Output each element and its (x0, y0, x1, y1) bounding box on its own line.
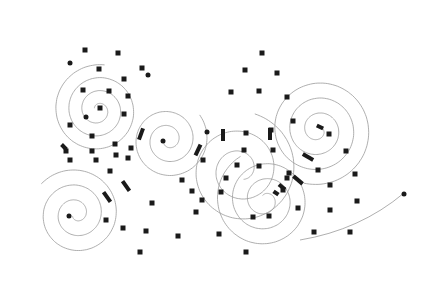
square-node (260, 51, 265, 56)
square-node (251, 215, 256, 220)
square-node (150, 201, 155, 206)
square-node (126, 94, 131, 99)
square-node (90, 149, 95, 154)
square-node (281, 188, 286, 193)
square-node (296, 206, 301, 211)
square-node (355, 199, 360, 204)
square-node (285, 176, 290, 181)
square-node (83, 48, 88, 53)
square-node (242, 148, 247, 153)
square-node (116, 51, 121, 56)
square-node (275, 71, 280, 76)
square-node (107, 89, 112, 94)
square-node (140, 66, 145, 71)
square-node (328, 183, 333, 188)
square-node (257, 164, 262, 169)
square-node (312, 230, 317, 235)
square-node (122, 77, 127, 82)
square-node (201, 158, 206, 163)
square-node (271, 148, 276, 153)
square-node (200, 198, 205, 203)
square-node (190, 189, 195, 194)
square-node (348, 230, 353, 235)
square-node (269, 128, 274, 133)
square-node (90, 134, 95, 139)
square-node (257, 89, 262, 94)
square-node (353, 172, 358, 177)
endpoint-dot (161, 139, 166, 144)
square-node (114, 153, 119, 158)
square-node (217, 232, 222, 237)
square-node (219, 190, 224, 195)
square-node (243, 68, 248, 73)
endpoint-dot (402, 192, 407, 197)
square-node (81, 88, 86, 93)
square-node (285, 95, 290, 100)
square-node (113, 142, 118, 147)
square-node (97, 67, 102, 72)
square-node (129, 146, 134, 151)
square-node (229, 90, 234, 95)
square-node (291, 119, 296, 124)
square-node (235, 163, 240, 168)
square-node (122, 112, 127, 117)
square-node (287, 171, 292, 176)
square-node (68, 158, 73, 163)
endpoint-dot (67, 214, 72, 219)
square-node (180, 178, 185, 183)
square-node (98, 106, 103, 111)
endpoint-dot (205, 130, 210, 135)
square-node (104, 218, 109, 223)
square-node (108, 169, 113, 174)
square-node (327, 132, 332, 137)
square-node (68, 123, 73, 128)
endpoint-dot (84, 115, 89, 120)
square-node (64, 149, 69, 154)
square-node (121, 226, 126, 231)
square-node (316, 168, 321, 173)
endpoint-dot (146, 73, 151, 78)
square-node (94, 158, 99, 163)
bar-marker (221, 129, 225, 141)
square-node (144, 229, 149, 234)
square-node (138, 250, 143, 255)
square-node (267, 214, 272, 219)
square-node (244, 131, 249, 136)
square-node (126, 156, 131, 161)
square-node (244, 250, 249, 255)
square-node (224, 176, 229, 181)
square-node (194, 210, 199, 215)
spiral-diagram (0, 0, 428, 300)
endpoint-dot (68, 61, 73, 66)
square-node (176, 234, 181, 239)
square-node (328, 208, 333, 213)
square-node (344, 149, 349, 154)
